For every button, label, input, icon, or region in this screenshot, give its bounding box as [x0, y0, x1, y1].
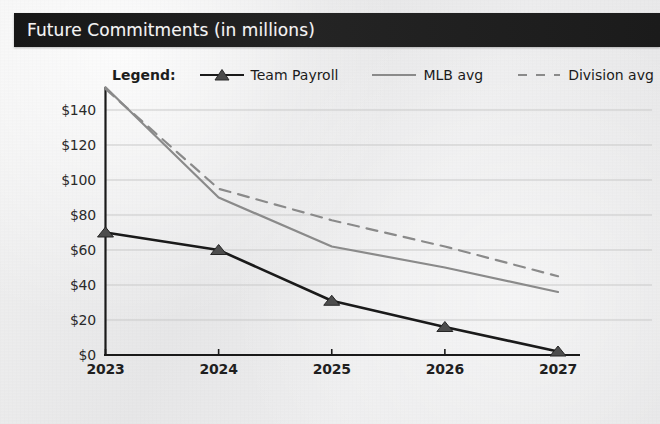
page-title: Future Commitments (in millions)	[14, 20, 315, 40]
x-axis-label: 2026	[410, 361, 480, 377]
x-axis-label: 2024	[184, 361, 254, 377]
chart-title-bar: Future Commitments (in millions)	[14, 13, 660, 47]
x-axis-tick-labels: 20232024202520262027	[0, 47, 660, 424]
chart-page: Future Commitments (in millions) Legend:…	[0, 0, 660, 424]
chart-canvas: Legend: Team Payroll MLB avg	[0, 47, 660, 424]
x-axis-label: 2027	[523, 361, 593, 377]
x-axis-label: 2025	[297, 361, 367, 377]
x-axis-label: 2023	[71, 361, 141, 377]
